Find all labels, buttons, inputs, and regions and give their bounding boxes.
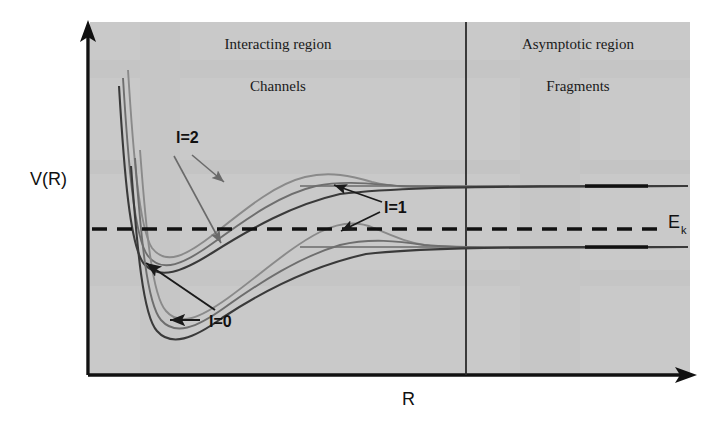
region-left-subtitle: Channels	[250, 78, 306, 94]
curve-label-l0: l=0	[209, 313, 232, 330]
energy-label-subscript: k	[681, 224, 687, 236]
region-left-title: Interacting region	[224, 36, 332, 52]
curve-label-l1: l=1	[384, 199, 407, 216]
figure-canvas: Interacting region Channels Asymptotic r…	[0, 0, 722, 423]
energy-label-main: E	[668, 212, 680, 232]
region-right-title: Asymptotic region	[522, 36, 635, 52]
y-axis-label: V(R)	[30, 169, 67, 189]
x-axis-label: R	[402, 389, 415, 409]
curve-label-l2: l=2	[176, 129, 199, 146]
region-right-subtitle: Fragments	[546, 78, 609, 94]
